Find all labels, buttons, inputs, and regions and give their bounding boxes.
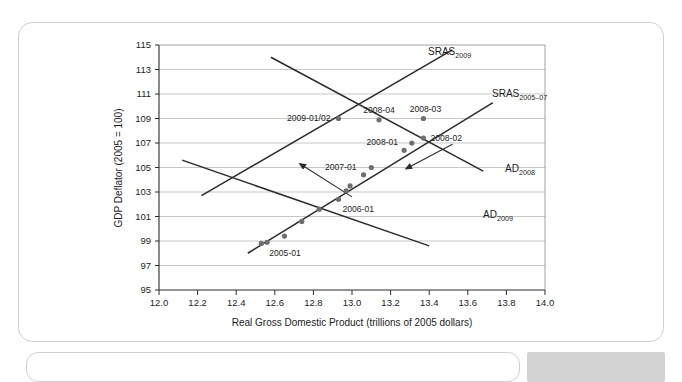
curve-sras-2005-07 <box>248 103 493 254</box>
y-tick-label: 111 <box>137 88 151 99</box>
data-point <box>409 140 414 145</box>
ad-shift-arrow <box>406 144 452 169</box>
x-tick-label: 13.4 <box>420 297 439 308</box>
x-axis-title: Real Gross Domestic Product (trillions o… <box>232 317 473 328</box>
data-point <box>347 183 352 188</box>
data-point-label: 2008-04 <box>363 105 395 115</box>
y-tick-label: 97 <box>140 260 151 271</box>
x-axis-ticks <box>159 290 545 295</box>
data-point <box>344 188 349 193</box>
curve-label-ad-2009: AD2009 <box>483 209 513 223</box>
data-point <box>299 219 304 224</box>
data-point <box>336 116 341 121</box>
curve-label-sras-2009: SRAS2009 <box>428 46 471 60</box>
data-point <box>421 136 426 141</box>
x-tick-label: 12.8 <box>304 297 323 308</box>
y-axis-tick-labels: 959799101103105107109111113115 <box>135 39 159 295</box>
x-tick-label: 14.0 <box>536 297 555 308</box>
data-point-label: 2006-01 <box>342 204 374 214</box>
y-axis-title: GDP Deflator (2005 = 100) <box>113 108 124 227</box>
gray-placeholder-block <box>527 352 665 382</box>
x-tick-label: 12.6 <box>266 297 285 308</box>
data-point <box>421 116 426 121</box>
y-tick-label: 101 <box>135 211 151 222</box>
y-tick-label: 103 <box>135 186 151 197</box>
data-point-label: 2008-01 <box>367 137 399 147</box>
y-tick-label: 109 <box>135 113 151 124</box>
y-tick-label: 113 <box>136 64 151 75</box>
curve-label-sras-2005-07: SRAS2005–07 <box>492 88 547 102</box>
data-point <box>264 240 269 245</box>
data-point-label: 2008-02 <box>430 133 462 143</box>
data-point <box>369 165 374 170</box>
data-point <box>259 241 264 246</box>
x-tick-label: 12.0 <box>150 297 169 308</box>
data-point <box>361 172 366 177</box>
curve-label-ad-2008: AD2008 <box>505 163 535 177</box>
data-point <box>282 234 287 239</box>
data-point-label: 2005-01 <box>269 248 301 258</box>
x-tick-label: 13.6 <box>459 297 478 308</box>
curves-group <box>182 50 493 253</box>
x-tick-label: 12.4 <box>227 297 246 308</box>
y-tick-label: 95 <box>140 284 151 295</box>
curve-ad-2009 <box>182 160 429 246</box>
x-tick-label: 13.0 <box>343 297 362 308</box>
data-point <box>376 117 381 122</box>
x-tick-label: 13.2 <box>381 297 400 308</box>
x-axis-tick-labels: 12.012.212.412.612.813.013.213.413.613.8… <box>150 297 555 308</box>
data-point-label: 2009-01/02 <box>287 113 331 123</box>
data-point <box>402 148 407 153</box>
next-figure-card <box>26 352 520 382</box>
x-tick-label: 13.8 <box>497 297 516 308</box>
data-point <box>317 207 322 212</box>
data-point <box>336 197 341 202</box>
y-tick-label: 99 <box>140 235 151 246</box>
y-tick-label: 105 <box>135 162 151 173</box>
shift-arrows-group <box>300 144 452 197</box>
y-tick-label: 115 <box>136 39 151 50</box>
y-tick-label: 107 <box>135 137 151 148</box>
data-points-group <box>259 116 426 246</box>
x-tick-label: 12.2 <box>188 297 207 308</box>
data-point-label: 2008-03 <box>410 104 442 114</box>
data-point-label: 2007-01 <box>325 162 357 172</box>
